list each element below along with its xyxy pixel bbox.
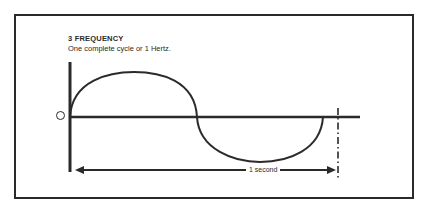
sine-positive-half [70, 72, 197, 117]
duration-label: 1 second [246, 166, 280, 173]
arrow-right-icon [327, 166, 336, 174]
arrow-left-icon [75, 166, 84, 174]
sine-negative-half [197, 117, 323, 162]
sine-wave-diagram [0, 0, 427, 216]
